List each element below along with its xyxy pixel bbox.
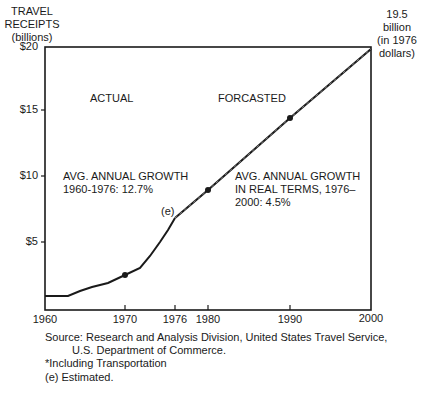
label-forcasted: FORCASTED [218, 92, 286, 105]
end-value-line2: billion [372, 21, 422, 34]
growth-actual-note: AVG. ANNUAL GROWTH 1960-1976: 12.7% [63, 170, 188, 196]
growth-actual-line1: AVG. ANNUAL GROWTH [63, 170, 188, 183]
source-line1: Source: Research and Analysis Division, … [45, 331, 387, 344]
end-value-line3: (in 1976 [372, 34, 422, 47]
x-tick-1976: 1976 [158, 313, 192, 325]
footnote-transport: *Including Transportation [45, 357, 167, 370]
x-tick-1970: 1970 [108, 313, 142, 325]
growth-actual-line2: 1960-1976: 12.7% [63, 183, 188, 196]
source-line2: U.S. Department of Commerce. [72, 344, 226, 357]
marker-1990 [287, 115, 293, 121]
series-actual [45, 218, 175, 296]
footnote-estimated: (e) Estimated. [45, 371, 113, 384]
marker-1970 [122, 272, 128, 278]
x-tick-1960: 1960 [28, 313, 62, 325]
x-tick-1990: 1990 [273, 313, 307, 325]
end-value-line1: 19.5 [372, 8, 422, 21]
growth-forecast-line3: 2000: 4.5% [235, 196, 360, 209]
end-value-line4: dollars) [372, 47, 422, 60]
label-actual: ACTUAL [90, 92, 133, 105]
marker-1980 [205, 187, 211, 193]
growth-forecast-line2: IN REAL TERMS, 1976– [235, 183, 360, 196]
growth-forecast-line1: AVG. ANNUAL GROWTH [235, 170, 360, 183]
growth-forecast-note: AVG. ANNUAL GROWTH IN REAL TERMS, 1976– … [235, 170, 360, 209]
end-value-label: 19.5 billion (in 1976 dollars) [372, 8, 422, 60]
estimated-mark: (e) [161, 205, 174, 218]
x-tick-1980: 1980 [191, 313, 225, 325]
x-tick-2000: 2000 [354, 312, 388, 324]
